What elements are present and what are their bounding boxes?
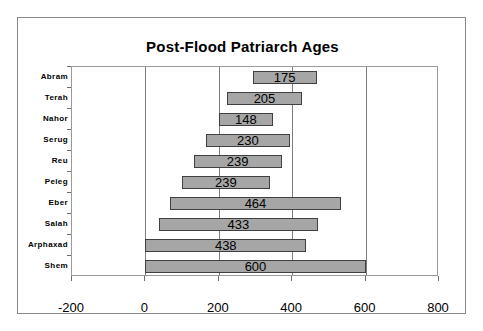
category-label-reu: Reu — [18, 150, 68, 171]
x-tick-600 — [365, 276, 366, 281]
bar-value-label: 239 — [182, 173, 270, 192]
bar-row: 600 — [72, 256, 437, 277]
bar-value-label: 600 — [145, 257, 365, 276]
bar-value-label: 205 — [227, 89, 302, 108]
category-label-salah: Salah — [18, 213, 68, 234]
x-tick-400 — [291, 276, 292, 281]
bar-row: 205 — [72, 88, 437, 109]
bar-row: 433 — [72, 214, 437, 235]
bar-value-label: 464 — [170, 194, 340, 213]
category-label-arphaxad: Arphaxad — [18, 234, 68, 255]
x-tick-label--200: -200 — [58, 300, 84, 315]
plot-area: 175205148230239239464433438600 — [71, 66, 438, 276]
bar-value-label: 239 — [194, 152, 282, 171]
x-tick--200 — [71, 276, 72, 281]
x-tick-label-800: 800 — [427, 300, 449, 315]
bar-row: 239 — [72, 172, 437, 193]
bars-container: 175205148230239239464433438600 — [72, 67, 437, 275]
category-label-terah: Terah — [18, 87, 68, 108]
x-tick-0 — [144, 276, 145, 281]
bar-row: 230 — [72, 130, 437, 151]
bar-row: 464 — [72, 193, 437, 214]
bar-row: 175 — [72, 67, 437, 88]
bar-value-label: 433 — [159, 215, 318, 234]
bar-row: 438 — [72, 235, 437, 256]
x-tick-200 — [218, 276, 219, 281]
category-label-nahor: Nahor — [18, 108, 68, 129]
category-label-eber: Eber — [18, 192, 68, 213]
x-tick-label-600: 600 — [354, 300, 376, 315]
bar-value-label: 175 — [253, 68, 317, 87]
x-tick-800 — [438, 276, 439, 281]
category-label-shem: Shem — [18, 255, 68, 276]
bar-row: 239 — [72, 151, 437, 172]
x-tick-label-400: 400 — [280, 300, 302, 315]
x-tick-label-0: 0 — [141, 300, 148, 315]
bar-value-label: 148 — [219, 110, 273, 129]
chart-frame: Post-Flood Patriarch Ages 17520514823023… — [17, 17, 466, 314]
category-label-serug: Serug — [18, 129, 68, 150]
x-tick-label-200: 200 — [207, 300, 229, 315]
category-label-abram: Abram — [18, 66, 68, 87]
bar-value-label: 230 — [206, 131, 290, 150]
chart-title: Post-Flood Patriarch Ages — [18, 38, 467, 55]
bar-value-label: 438 — [145, 236, 306, 255]
bar-row: 148 — [72, 109, 437, 130]
category-label-peleg: Peleg — [18, 171, 68, 192]
